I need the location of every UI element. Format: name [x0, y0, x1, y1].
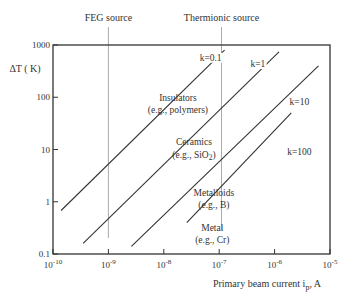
y-tick-label: 1000	[32, 40, 51, 50]
x-axis-label: Primary beam current ip, A	[213, 278, 322, 292]
series-line-k1	[83, 52, 279, 244]
chart: FEG sourceThermionic source 0.1110100100…	[0, 0, 350, 300]
annotation-label: Metal	[201, 223, 224, 233]
x-tick-label: 10-8	[156, 258, 171, 270]
series-line-k01	[61, 50, 224, 210]
annotation-label: k=10	[290, 97, 310, 107]
annotation-label: (e.g., B)	[198, 200, 229, 211]
y-tick-label: 10	[41, 145, 51, 155]
y-tick-label: 100	[37, 92, 51, 102]
annotation-label: Metalloids	[194, 188, 235, 198]
annotation-label: Ceramics	[176, 137, 212, 147]
annotation-label: (e.g., polymers)	[148, 105, 208, 116]
annotation-label: (e.g., Cr)	[195, 235, 229, 246]
data-series	[61, 50, 318, 246]
annotation-label: Insulators	[159, 93, 197, 103]
source-marker-label: Thermionic source	[184, 12, 260, 23]
x-tick-label: 10-5	[323, 258, 338, 270]
axes: 0.1110100100010-1010-910-810-710-610-5ΔT…	[9, 40, 338, 292]
source-markers: FEG sourceThermionic source	[85, 12, 260, 238]
annotation-label: k=0.1	[200, 53, 222, 63]
annotation-label: k=100	[287, 147, 312, 157]
x-tick-label: 10-9	[101, 258, 116, 270]
annotation-label: k=1	[250, 59, 265, 69]
y-tick-label: 1	[46, 197, 51, 207]
y-tick-label: 0.1	[39, 249, 50, 259]
x-tick-label: 10-7	[212, 258, 227, 270]
x-tick-label: 10-6	[267, 258, 282, 270]
annotation-label: (e.g., SiO2)	[172, 150, 215, 162]
y-axis-label: ΔT ( K)	[9, 63, 40, 75]
source-marker-label: FEG source	[85, 12, 133, 23]
x-tick-label: 10-10	[44, 258, 63, 270]
annotations: k=0.1k=1k=10k=100Insulators(e.g., polyme…	[148, 53, 313, 247]
